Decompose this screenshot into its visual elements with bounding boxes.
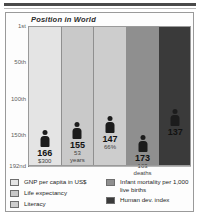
bar-rank-value: 166	[37, 148, 52, 158]
bar-columns: 166$30015553years14766%173103deaths137	[29, 26, 191, 166]
top-divider-hairline	[4, 8, 196, 9]
gridline	[29, 166, 191, 167]
bar-column[interactable]: 15553years	[62, 26, 95, 166]
legend-item[interactable]: Infant mortality per 1,000 live births	[106, 178, 194, 193]
legend-column-right: Infant mortality per 1,000 live birthsHu…	[106, 178, 194, 207]
bar-value-label: 14766%	[102, 134, 117, 151]
legend-item-label: Life expectancy	[24, 189, 67, 197]
y-axis-tick-label: 100th	[0, 96, 26, 102]
legend-item[interactable]: Life expectancy	[10, 189, 102, 197]
chart-title: Position in World	[31, 15, 96, 24]
bar-rank-value: 173	[134, 153, 152, 163]
bar-value-label: 173103deaths	[134, 153, 152, 177]
bar-rank-value: 137	[168, 127, 183, 137]
person-icon	[170, 109, 181, 126]
bar-value-label: 137	[168, 127, 183, 137]
bar-rank-value: 147	[102, 134, 117, 144]
top-divider-rule	[4, 3, 196, 6]
legend-item-label: Literacy	[24, 200, 46, 208]
legend-item-label: Infant mortality per 1,000 live births	[120, 178, 194, 193]
y-axis-tick-label: 50th	[0, 59, 26, 65]
legend-item[interactable]: Human dev. index	[106, 196, 194, 204]
bar-detail-value: $300	[37, 158, 52, 165]
legend-swatch-icon	[106, 179, 115, 186]
bar-rank-value: 155	[70, 140, 85, 150]
y-axis-tick-label: 150th	[0, 132, 26, 138]
legend-swatch-icon	[10, 201, 19, 208]
bar-detail-value: 66%	[102, 144, 117, 151]
bar-column[interactable]: 14766%	[94, 26, 127, 166]
person-icon	[104, 116, 115, 133]
bar-column[interactable]: 173103deaths	[127, 26, 160, 166]
bar-detail-unit: deaths	[134, 170, 152, 177]
bar-column[interactable]: 137	[159, 26, 191, 166]
legend-item[interactable]: Literacy	[10, 200, 102, 208]
bar-detail-unit: years	[70, 157, 85, 164]
bar-detail-value: 103	[134, 163, 152, 170]
person-icon	[137, 135, 148, 152]
legend-swatch-icon	[10, 190, 19, 197]
legend-item-label: GNP per capita in US$	[24, 178, 86, 186]
bar-column[interactable]: 166$300	[29, 26, 62, 166]
legend-column-left: GNP per capita in US$Life expectancyLite…	[10, 178, 102, 211]
plot-area: 166$30015553years14766%173103deaths137	[28, 26, 191, 166]
legend-item-label: Human dev. index	[120, 196, 169, 204]
y-axis-tick-label: 1st	[0, 23, 26, 29]
person-icon	[39, 130, 50, 147]
legend-swatch-icon	[106, 197, 115, 204]
person-icon	[72, 122, 83, 139]
bar-value-label: 15553years	[70, 140, 85, 164]
infographic-page: Position in World 1st50th100th150th192nd…	[0, 0, 200, 220]
bar-detail-value: 53	[70, 150, 85, 157]
legend-item[interactable]: GNP per capita in US$	[10, 178, 102, 186]
legend-swatch-icon	[10, 179, 19, 186]
bar-value-label: 166$300	[37, 148, 52, 165]
y-axis-tick-label: 192nd	[0, 163, 26, 169]
